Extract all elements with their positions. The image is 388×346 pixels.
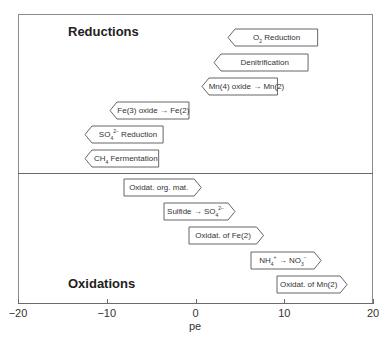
- process-label: NH4+ → NO3−: [251, 252, 314, 270]
- reductions-process-box: SO42− Reduction: [85, 126, 163, 144]
- oxidations-process-box: Oxidat. of Fe(2): [189, 227, 264, 245]
- process-label: CH4 Fermentation: [92, 150, 159, 168]
- process-label: SO42− Reduction: [92, 126, 163, 144]
- oxidations-process-box: Oxidat. org. mat.: [124, 179, 201, 197]
- x-tick: [196, 299, 197, 304]
- x-tick: [373, 299, 374, 304]
- oxidations-process-box: Oxidat. of Mn(2): [277, 276, 347, 294]
- x-axis-label: pe: [189, 320, 201, 332]
- x-tick: [284, 299, 285, 304]
- reductions-process-box: Mn(4) oxide → Mn(2): [202, 78, 277, 96]
- process-label: Sulfide → SO42−: [164, 203, 228, 221]
- reductions-title: Reductions: [68, 24, 139, 39]
- reductions-process-box: CH4 Fermentation: [85, 150, 159, 168]
- process-label: Mn(4) oxide → Mn(2): [209, 78, 277, 96]
- x-tick: [107, 299, 108, 304]
- process-label: O2 Reduction: [235, 29, 318, 47]
- x-tick-label: −10: [97, 307, 116, 319]
- x-tick: [18, 299, 19, 304]
- process-label: Denitrification: [221, 54, 308, 72]
- section-divider: [18, 173, 373, 174]
- oxidations-title: Oxidations: [68, 276, 135, 291]
- x-tick-label: 10: [278, 307, 290, 319]
- x-tick-label: 20: [367, 307, 379, 319]
- process-label: Oxidat. of Fe(2): [189, 227, 257, 245]
- process-label: Oxidat. of Mn(2): [277, 276, 340, 294]
- reductions-process-box: Fe(3) oxide → Fe(2): [110, 102, 189, 120]
- x-tick-label: 0: [192, 307, 198, 319]
- process-label: Oxidat. org. mat.: [124, 179, 194, 197]
- x-tick-label: −20: [9, 307, 28, 319]
- oxidations-process-box: NH4+ → NO3−: [251, 252, 321, 270]
- reductions-process-box: O2 Reduction: [228, 29, 318, 47]
- reductions-process-box: Denitrification: [214, 54, 308, 72]
- pe-redox-chart: Reductions Oxidations −20−1001020 pe O2 …: [0, 0, 388, 346]
- oxidations-process-box: Sulfide → SO42−: [164, 203, 235, 221]
- process-label: Fe(3) oxide → Fe(2): [117, 102, 189, 120]
